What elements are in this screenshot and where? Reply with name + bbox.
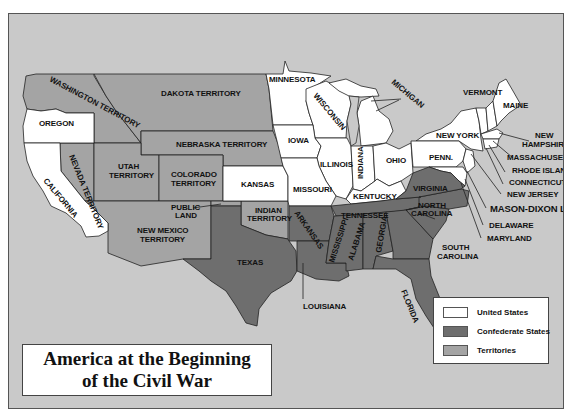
label-mason-dixon-line: MASON-DIXON LINE — [490, 203, 564, 214]
legend-item-confederate-states: Confederate States — [443, 325, 550, 338]
legend-label: United States — [477, 308, 528, 317]
legend-swatch-confederate-states — [443, 326, 468, 337]
map-title-box: America at the Beginning of the Civil Wa… — [22, 344, 272, 396]
map-title-line-1: America at the Beginning — [23, 348, 271, 370]
label-ohio: OHIO — [386, 156, 406, 165]
label-illinois: ILLINOIS — [320, 160, 354, 169]
label-michigan: MICHIGAN — [390, 78, 426, 111]
label-delaware: DELAWARE — [489, 221, 534, 230]
label-south-carolina-1: SOUTH — [442, 243, 470, 252]
label-iowa: IOWA — [288, 136, 309, 145]
label-utah-2: TERRITORY — [109, 171, 155, 180]
label-public-land-2: LAND — [175, 211, 197, 220]
label-kentucky: KENTUCKY — [353, 192, 397, 201]
label-new-jersey: NEW JERSEY — [507, 190, 559, 199]
label-louisiana: LOUISIANA — [303, 302, 346, 311]
label-kansas: KANSAS — [241, 180, 275, 189]
label-connecticut: CONNECTICUT — [509, 178, 564, 187]
label-indiana: INDIANA — [356, 146, 365, 179]
map-legend: United States Confederate States Territo… — [433, 297, 549, 364]
label-rhode-island: RHODE ISLAND — [512, 166, 564, 175]
label-north-carolina-2: CAROLINA — [411, 209, 453, 218]
region-public-land — [211, 201, 241, 206]
label-south-carolina-2: CAROLINA — [437, 252, 479, 261]
label-nebraska-territory: NEBRASKA TERRITORY — [176, 140, 268, 149]
label-utah-1: UTAH — [118, 162, 140, 171]
label-new-hampshire-2: HAMPSHIRE — [522, 140, 564, 149]
label-new-york: NEW YORK — [436, 131, 479, 140]
label-new-mexico-1: NEW MEXICO — [137, 226, 188, 235]
region-michigan-lower — [357, 96, 393, 146]
label-colorado-2: TERRITORY — [171, 179, 217, 188]
legend-item-united-states: United States — [443, 306, 528, 319]
label-maryland: MARYLAND — [487, 234, 532, 243]
label-massachusetts: MASSACHUSETTS — [507, 153, 564, 162]
label-oregon: OREGON — [39, 119, 74, 128]
legend-label: Territories — [477, 346, 516, 355]
label-maine: MAINE — [503, 101, 529, 110]
label-indian-2: TERRITORY — [247, 214, 293, 223]
label-penn: PENN. — [429, 153, 453, 162]
label-colorado-1: COLORADO — [171, 170, 217, 179]
label-virginia: VIRGINIA — [413, 184, 448, 193]
legend-swatch-territories — [443, 345, 468, 356]
legend-swatch-united-states — [443, 307, 468, 318]
legend-label: Confederate States — [477, 327, 550, 336]
label-texas: TEXAS — [237, 258, 264, 267]
label-vermont: VERMONT — [463, 88, 503, 97]
legend-item-territories: Territories — [443, 344, 516, 357]
label-dakota-territory: DAKOTA TERRITORY — [161, 89, 241, 98]
label-new-hampshire-1: NEW — [535, 131, 554, 140]
map-title-line-2: of the Civil War — [23, 370, 271, 392]
label-new-mexico-2: TERRITORY — [140, 235, 186, 244]
label-missouri: MISSOURI — [293, 185, 332, 194]
label-minnesota: MINNESOTA — [269, 75, 316, 84]
